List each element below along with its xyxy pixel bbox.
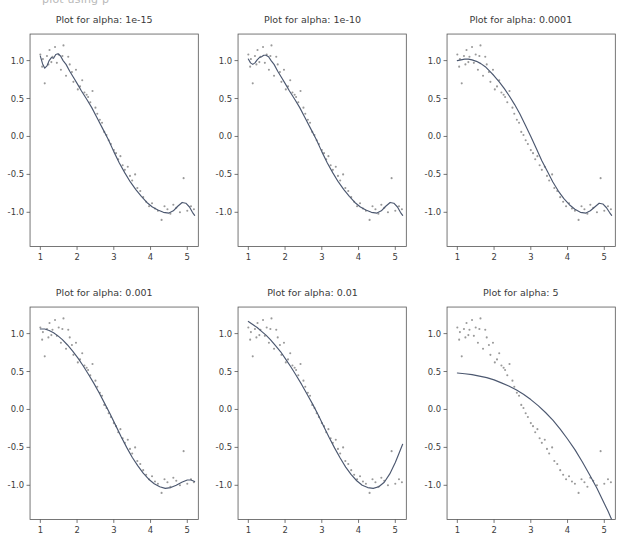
data-point [39, 53, 41, 55]
data-point [94, 379, 96, 381]
data-point [580, 205, 582, 207]
data-point [492, 69, 494, 71]
axes: 123451.00.50.0-0.5-1.0 [208, 281, 416, 553]
data-point [398, 205, 400, 207]
data-point [259, 61, 261, 63]
axes: 123451.00.50.0-0.5-1.0 [0, 8, 208, 281]
subplot-cell: Plot for alpha: 1e-15 123451.00.50.0-0.5… [0, 8, 208, 281]
data-point [262, 46, 264, 48]
data-point [551, 173, 553, 175]
data-point [83, 91, 85, 93]
clipped-header-text: plot using p [42, 0, 109, 6]
data-point [163, 478, 165, 480]
data-point [471, 318, 473, 320]
data-point [372, 205, 374, 207]
x-tick-label: 2 [74, 252, 79, 262]
data-point [183, 177, 185, 179]
data-point [51, 328, 53, 330]
data-point [193, 208, 195, 210]
data-point [250, 58, 252, 60]
data-point [492, 341, 494, 343]
data-point [589, 204, 591, 206]
data-point [458, 338, 460, 340]
x-tick-label: 4 [356, 252, 361, 262]
data-point [607, 205, 609, 207]
data-point [271, 317, 273, 319]
data-point [365, 482, 367, 484]
data-point [467, 61, 469, 63]
data-point [328, 155, 330, 157]
data-point [139, 463, 141, 465]
data-point [69, 336, 71, 338]
data-point [42, 331, 44, 333]
data-point [47, 336, 49, 338]
plot-frame [238, 34, 406, 246]
data-point [362, 480, 364, 482]
data-point [56, 62, 58, 64]
data-point [305, 113, 307, 115]
data-point [292, 91, 294, 93]
data-point [276, 328, 278, 330]
data-point [307, 119, 309, 121]
y-tick-label: 0.0 [219, 404, 232, 414]
data-point [518, 122, 520, 124]
data-point [596, 211, 598, 213]
data-point [534, 158, 536, 160]
data-point [538, 437, 540, 439]
data-point [489, 353, 491, 355]
data-point [273, 75, 275, 77]
x-tick-label: 5 [393, 252, 398, 262]
data-point [580, 478, 582, 480]
data-point [536, 155, 538, 157]
data-point [603, 482, 605, 484]
data-point [163, 205, 165, 207]
data-point [101, 122, 103, 124]
data-point [522, 406, 524, 408]
data-point [610, 481, 612, 483]
data-point [72, 353, 74, 355]
fit-curve [40, 54, 194, 216]
data-point [179, 211, 181, 213]
plot-frame [30, 34, 198, 246]
data-point [599, 177, 601, 179]
data-point [41, 66, 43, 68]
y-tick-label: -0.5 [424, 169, 440, 179]
data-point [186, 210, 188, 212]
data-point [610, 208, 612, 210]
y-tick-label: 1.0 [219, 56, 232, 66]
data-point [548, 179, 550, 181]
plot-area: 123451.00.50.0-0.5-1.0 [417, 281, 625, 553]
data-point [348, 190, 350, 192]
plot-frame [447, 307, 615, 519]
data-point [482, 75, 484, 77]
data-point [506, 374, 508, 376]
data-point [599, 450, 601, 452]
scatter-series [39, 44, 195, 221]
data-point [472, 62, 474, 64]
data-point [289, 79, 291, 81]
axes: 123451.00.50.0-0.5-1.0 [417, 281, 625, 553]
y-tick-label: 0.5 [219, 366, 232, 376]
plot-area: 123451.00.50.0-0.5-1.0 [0, 281, 208, 553]
data-point [61, 327, 63, 329]
data-point [44, 355, 46, 357]
data-point [463, 327, 465, 329]
data-point [289, 352, 291, 354]
data-point [456, 53, 458, 55]
plot-area: 123451.00.50.0-0.5-1.0 [417, 8, 625, 281]
x-tick-label: 4 [565, 252, 570, 262]
data-point [459, 331, 461, 333]
data-point [264, 62, 266, 64]
data-point [522, 134, 524, 136]
data-point [277, 63, 279, 65]
data-point [498, 352, 500, 354]
data-point [511, 379, 513, 381]
data-point [276, 56, 278, 58]
data-point [285, 361, 287, 363]
data-point [511, 107, 513, 109]
data-point [257, 49, 259, 51]
data-point [139, 190, 141, 192]
data-point [303, 379, 305, 381]
data-point [330, 164, 332, 166]
subplot-cell: Plot for alpha: 5 123451.00.50.0-0.5-1.0 [417, 281, 625, 553]
